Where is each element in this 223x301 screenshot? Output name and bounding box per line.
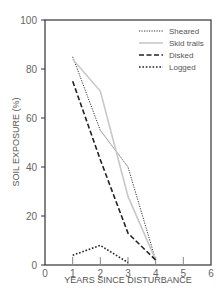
y-tick-label: 80	[26, 64, 38, 75]
series-skid-trails	[73, 59, 156, 260]
x-axis-title: YEARS SINCE DISTURBANCE	[64, 275, 192, 285]
y-tick-label: 40	[26, 162, 38, 173]
legend-label: Logged	[169, 63, 196, 72]
y-axis: 020406080100	[20, 15, 45, 271]
x-tick-label: 6	[208, 268, 214, 279]
legend-label: Sheared	[169, 27, 199, 36]
legend-label: Skid trails	[169, 39, 204, 48]
y-tick-label: 60	[26, 113, 38, 124]
data-series	[73, 57, 156, 263]
y-tick-label: 20	[26, 211, 38, 222]
legend: ShearedSkid trailsDiskedLogged	[139, 27, 204, 72]
x-tick-label: 0	[42, 268, 48, 279]
y-tick-label: 100	[20, 15, 37, 26]
legend-label: Disked	[169, 51, 193, 60]
y-tick-label: 0	[31, 260, 37, 271]
soil-exposure-chart: 020406080100 0123456 ShearedSkid trailsD…	[0, 0, 223, 301]
y-axis-title: SOIL EXPOSURE (%)	[11, 97, 21, 186]
